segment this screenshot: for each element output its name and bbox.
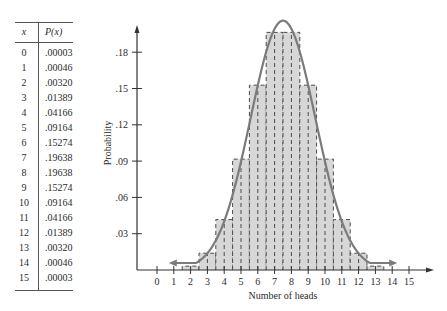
y-tick-label: .12 <box>116 119 129 130</box>
x-tick-label: 14 <box>387 276 397 287</box>
x-tick-label: 15 <box>404 276 414 287</box>
curve-arrow-right-icon <box>389 260 397 267</box>
x-tick-label: 8 <box>289 276 294 287</box>
y-axis-arrow-icon <box>135 25 140 33</box>
x-tick-label: 9 <box>306 276 311 287</box>
y-tick-label: .06 <box>116 192 129 203</box>
x-tick-label: 6 <box>255 276 260 287</box>
y-tick-label: .03 <box>116 228 129 239</box>
x-tick-label: 10 <box>320 276 330 287</box>
x-tick-label: 2 <box>188 276 193 287</box>
x-tick-label: 13 <box>370 276 380 287</box>
histogram-bars <box>182 32 384 270</box>
binomial-chart: 0123456789101112131415 .03.06.09.12.15.1… <box>0 0 447 311</box>
x-tick-label: 1 <box>171 276 176 287</box>
x-axis-arrow-icon <box>426 268 434 273</box>
x-tick-label: 11 <box>337 276 347 287</box>
x-tick-label: 3 <box>205 276 210 287</box>
y-axis-label: Probability <box>102 121 113 165</box>
x-tick-label: 5 <box>239 276 244 287</box>
y-tick-label: .18 <box>116 47 129 58</box>
y-tick-label: .15 <box>116 83 129 94</box>
x-tick-label: 0 <box>155 276 160 287</box>
x-tick-label: 12 <box>354 276 364 287</box>
x-axis-label: Number of heads <box>249 290 318 301</box>
x-tick-label: 7 <box>272 276 277 287</box>
curve-arrow-left-icon <box>169 260 177 267</box>
x-tick-label: 4 <box>222 276 227 287</box>
y-axis-ticks: .03.06.09.12.15.18 <box>116 47 143 240</box>
y-tick-label: .09 <box>116 156 129 167</box>
